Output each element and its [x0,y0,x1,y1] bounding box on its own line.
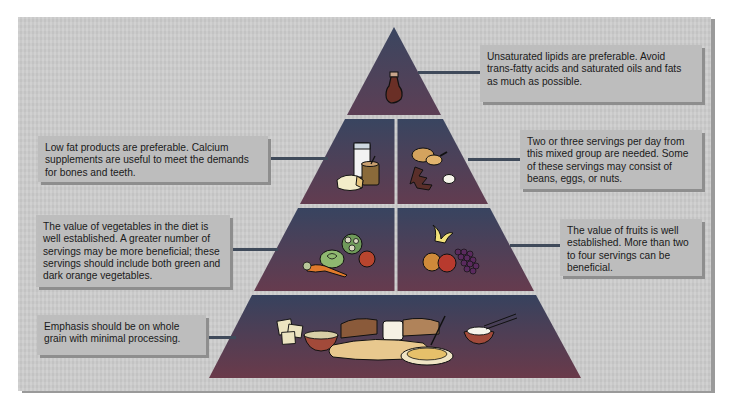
leader-line-fruits [510,244,562,247]
leader-line-meat [468,158,521,161]
tier-dairy [300,119,395,204]
callout-vegetables-text: The value of vegetables in the diet is w… [43,221,220,281]
leader-line-dairy [268,157,328,160]
callout-fruits: The value of fruits is well established.… [560,219,702,276]
leader-line-vegetables [230,248,278,251]
callout-meat: Two or three servings per day from this … [520,130,702,189]
callout-dairy: Low fat products are preferable. Calcium… [38,136,268,182]
callout-dairy-text: Low fat products are preferable. Calcium… [45,142,249,178]
tier-meat [398,119,489,204]
callout-fats-oils: Unsaturated lipids are preferable. Avoid… [480,45,702,102]
callout-grains-text: Emphasis should be on whole grain with m… [44,321,180,344]
leader-line-fats [418,71,482,74]
callout-fruits-text: The value of fruits is well established.… [567,225,689,273]
leader-line-grains [206,336,236,339]
callout-grains: Emphasis should be on whole grain with m… [37,315,206,355]
callout-meat-text: Two or three servings per day from this … [527,136,688,184]
callout-vegetables: The value of vegetables in the diet is w… [36,215,230,287]
callout-fats-oils-text: Unsaturated lipids are preferable. Avoid… [487,51,681,87]
